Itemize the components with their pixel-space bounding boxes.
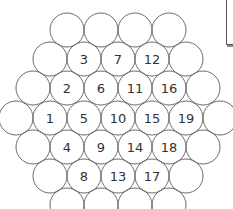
empty-circle (169, 42, 203, 76)
circle-label: 12 (144, 52, 161, 67)
numbered-circle: 2 (50, 71, 84, 105)
circle-label: 15 (144, 111, 161, 126)
numbered-circle: 3 (67, 42, 101, 76)
empty-circle (169, 159, 203, 193)
numbered-circle: 5 (67, 101, 101, 135)
circle-label: 14 (127, 140, 144, 155)
numbered-circle: 4 (50, 130, 84, 164)
numbered-circle: 19 (169, 101, 203, 135)
empty-circle (152, 188, 186, 209)
circle-label: 16 (161, 81, 178, 96)
numbered-circle: 7 (101, 42, 135, 76)
empty-circle (118, 13, 152, 47)
empty-circle (0, 101, 33, 135)
circle-label: 1 (46, 111, 54, 126)
circle-packing-diagram: 37122611161510151949141881317 (0, 0, 233, 209)
numbered-circle: 17 (135, 159, 169, 193)
empty-circle (203, 101, 233, 135)
numbered-circle: 8 (67, 159, 101, 193)
numbered-circle: 11 (118, 71, 152, 105)
circle-label: 9 (97, 140, 105, 155)
circle-label: 19 (178, 111, 195, 126)
circle-label: 8 (80, 169, 88, 184)
numbered-circle: 15 (135, 101, 169, 135)
empty-circle (16, 130, 50, 164)
empty-circle (84, 13, 118, 47)
empty-circle (152, 13, 186, 47)
empty-circle (186, 71, 220, 105)
numbered-circle: 6 (84, 71, 118, 105)
numbered-circle: 1 (33, 101, 67, 135)
circle-label: 7 (114, 52, 122, 67)
circle-label: 18 (161, 140, 178, 155)
circle-label: 10 (110, 111, 127, 126)
circle-label: 11 (127, 81, 144, 96)
empty-circle (84, 188, 118, 209)
numbered-circle: 10 (101, 101, 135, 135)
empty-circle (186, 130, 220, 164)
numbered-circle: 14 (118, 130, 152, 164)
circle-label: 5 (80, 111, 88, 126)
circle-label: 6 (97, 81, 105, 96)
diagram-canvas: 37122611161510151949141881317 (0, 0, 233, 209)
empty-circle (16, 71, 50, 105)
numbered-circle: 13 (101, 159, 135, 193)
circle-label: 4 (63, 140, 71, 155)
circle-label: 2 (63, 81, 71, 96)
numbered-circle: 18 (152, 130, 186, 164)
numbered-circle: 9 (84, 130, 118, 164)
corner-box (226, 0, 233, 45)
empty-circle (50, 13, 84, 47)
numbered-circle: 12 (135, 42, 169, 76)
circle-label: 13 (110, 169, 127, 184)
empty-circle (118, 188, 152, 209)
empty-circle (33, 42, 67, 76)
circle-label: 17 (144, 169, 161, 184)
circle-label: 3 (80, 52, 88, 67)
empty-circle (33, 159, 67, 193)
empty-circle (50, 188, 84, 209)
numbered-circle: 16 (152, 71, 186, 105)
